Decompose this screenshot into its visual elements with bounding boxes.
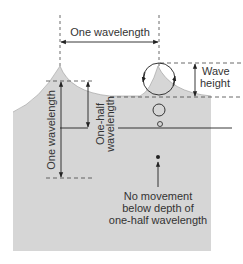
one-wavelength-label: One wavelength	[70, 26, 150, 38]
half-wavelength-label-2: wavelength	[104, 96, 116, 153]
vertical-wavelength-label: One wavelength	[45, 90, 57, 170]
wave-diagram: One wavelength Wave height One wavelengt…	[0, 0, 243, 264]
wave-height-label-1: Wave	[202, 65, 230, 77]
no-movement-label-1: No movement	[124, 190, 192, 202]
no-movement-dot	[156, 155, 160, 159]
no-movement-label-2: below depth of	[122, 202, 194, 214]
wave-height-label-2: height	[200, 77, 230, 89]
no-movement-label-3: one-half wavelength	[109, 214, 207, 226]
